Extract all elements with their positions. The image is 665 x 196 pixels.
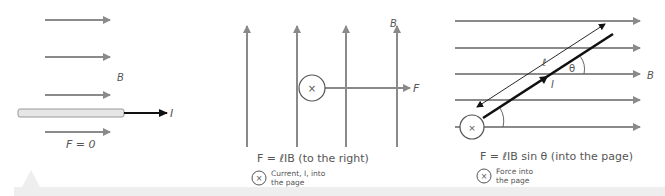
legend-text-1: Current, I, into <box>271 169 326 178</box>
length-label: ℓ <box>542 57 546 68</box>
panel-angled-wire: B ℓ I θ × F = ℓIB sin θ (into the page) … <box>455 21 654 185</box>
magnetic-force-diagram: B I F = 0 B F × F = ℓIB (to the right) ×… <box>0 0 665 196</box>
angle-arc <box>580 56 585 74</box>
length-arrow <box>477 24 605 107</box>
angle-arc-lower <box>500 108 504 127</box>
equation: F = ℓIB (to the right) <box>257 152 369 165</box>
field-label-b: B <box>647 70 654 81</box>
equation: F = ℓIB sin θ (into the page) <box>480 150 633 163</box>
cross-symbol: × <box>308 83 316 94</box>
panel-perpendicular-wire: B F × F = ℓIB (to the right) × Current, … <box>247 18 420 187</box>
panel-parallel-wire: B I F = 0 <box>18 20 173 151</box>
cross-symbol: × <box>468 123 476 133</box>
field-lines <box>455 21 640 127</box>
angle-label: θ <box>569 63 575 74</box>
current-label: I <box>170 107 173 120</box>
wire <box>18 109 124 117</box>
legend-text-2: the page <box>271 178 305 187</box>
field-label-b: B <box>117 72 124 83</box>
legend-cross: × <box>481 172 488 181</box>
force-label: F = 0 <box>66 138 96 151</box>
current-label: I <box>551 79 554 90</box>
legend-cross: × <box>256 174 263 183</box>
legend-text-2: the page <box>496 176 530 185</box>
force-arrow-label: F <box>413 82 420 95</box>
legend-text-1: Force into <box>496 167 533 176</box>
field-label-b: B <box>390 18 397 29</box>
